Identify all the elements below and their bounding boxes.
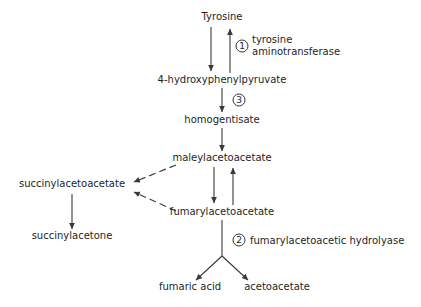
node-label-acetoacetate: acetoacetate [244,281,310,292]
enzyme-label-1-line-2: aminotransferase [252,46,340,57]
node-label-fumaric-acid: fumaric acid [159,281,221,292]
pathway-canvas: succinylacetoacetate (dashed) ===== --> … [0,0,421,307]
step-number-1: 1 [239,41,245,51]
step-number-2: 2 [236,235,242,245]
node-label-fumarylacetoacetate: fumarylacetoacetate [170,206,274,217]
arrow-maleylacetoacetate-to-succinylacetoacetate [134,165,176,182]
node-label-succinylacetone: succinylacetone [32,230,113,241]
node-label-4-hydroxyphenylpyruvate: 4-hydroxyphenylpyruvate [158,74,287,85]
node-label-tyrosine: Tyrosine [201,11,243,22]
arrow-fork-to-fumaric-acid [196,256,222,280]
node-label-maleylacetoacetate: maleylacetoacetate [172,152,271,163]
enzyme-label-1-line-1: tyrosine [252,34,292,45]
step-number-3: 3 [236,95,242,105]
node-label-homogentisate: homogentisate [184,114,259,125]
pathway-diagram: succinylacetoacetate (dashed) ===== --> … [0,0,421,307]
enzyme-label-2-line-1: fumarylacetoacetic hydrolyase [250,235,404,246]
arrow-fork-to-acetoacetate [222,256,248,280]
node-label-succinylacetoacetate: succinylacetoacetate [19,178,125,189]
